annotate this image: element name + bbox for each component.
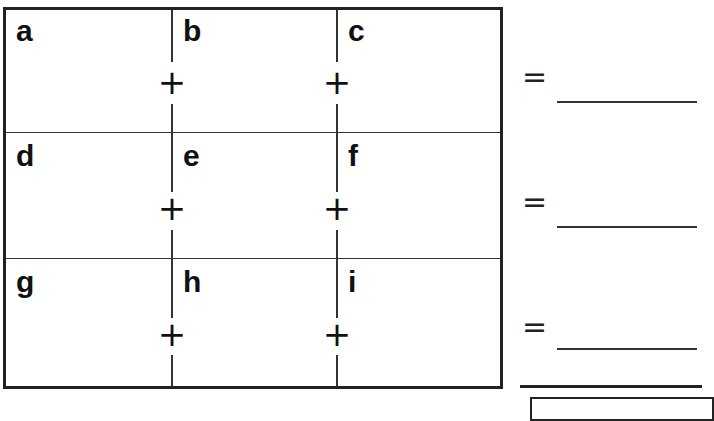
column-divider bbox=[336, 355, 338, 386]
row-divider bbox=[6, 132, 500, 133]
column-divider bbox=[171, 10, 173, 62]
answer-blank-row-1[interactable] bbox=[557, 101, 697, 103]
cell-label-c: c bbox=[348, 16, 365, 46]
total-answer-box[interactable] bbox=[530, 397, 714, 421]
plus-sign: + bbox=[323, 317, 352, 351]
column-divider bbox=[171, 230, 173, 318]
cell-label-f: f bbox=[348, 141, 358, 171]
letter-grid: a b c + + d e f + + g h i + + bbox=[3, 7, 503, 389]
plus-sign: + bbox=[323, 191, 352, 225]
row-divider bbox=[6, 258, 500, 259]
answer-blank-row-2[interactable] bbox=[557, 226, 697, 228]
plus-sign: + bbox=[158, 191, 187, 225]
sum-line bbox=[520, 385, 702, 388]
cell-label-g: g bbox=[16, 267, 34, 297]
cell-label-i: i bbox=[348, 267, 356, 297]
plus-sign: + bbox=[323, 65, 352, 99]
answer-blank-row-3[interactable] bbox=[557, 348, 697, 350]
cell-label-e: e bbox=[183, 141, 200, 171]
column-divider bbox=[336, 230, 338, 318]
column-divider bbox=[336, 104, 338, 192]
column-divider bbox=[171, 355, 173, 386]
cell-label-b: b bbox=[183, 16, 201, 46]
cell-label-d: d bbox=[16, 141, 34, 171]
equals-sign: = bbox=[522, 312, 547, 342]
cell-label-h: h bbox=[183, 267, 201, 297]
cell-label-a: a bbox=[16, 16, 33, 46]
column-divider bbox=[336, 10, 338, 62]
plus-sign: + bbox=[158, 317, 187, 351]
equals-sign: = bbox=[522, 62, 547, 92]
plus-sign: + bbox=[158, 65, 187, 99]
column-divider bbox=[171, 104, 173, 192]
equals-sign: = bbox=[522, 187, 547, 217]
